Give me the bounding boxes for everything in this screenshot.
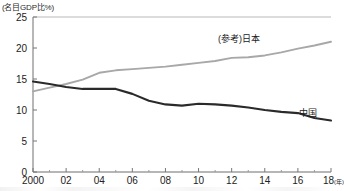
y-tick-label: 20: [5, 43, 27, 54]
y-tick-label: 10: [5, 105, 27, 116]
series-label-japan: (参考)日本: [218, 32, 260, 45]
x-tick-label: 06: [127, 175, 138, 186]
x-axis-unit-label: (年): [334, 179, 344, 185]
x-tick-label: 10: [193, 175, 204, 186]
x-tick-label: 14: [259, 175, 270, 186]
x-tick-label: 12: [226, 175, 237, 186]
bottom-edge-artifact: [0, 187, 334, 191]
y-tick-label: 15: [5, 74, 27, 85]
x-tick-label: 18(年): [323, 175, 344, 186]
x-tick-label: 02: [61, 175, 72, 186]
x-tick-label: 2000: [22, 175, 44, 186]
series-label-china: 中国: [299, 106, 317, 119]
x-tick-label: 16: [292, 175, 303, 186]
y-tick-label: 5: [5, 136, 27, 147]
y-tick-label: 25: [5, 12, 27, 23]
x-tick-label: 08: [160, 175, 171, 186]
x-tick-label: 04: [94, 175, 105, 186]
